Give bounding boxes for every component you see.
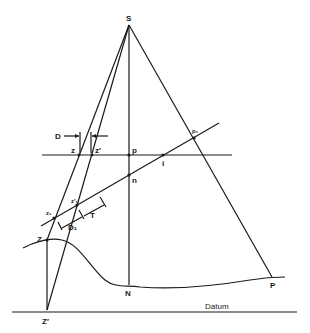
- label-p: p: [132, 146, 137, 155]
- point-z: [78, 154, 81, 157]
- ray-S-Zprime: [47, 25, 129, 310]
- point-n: [127, 173, 130, 176]
- point-p: [127, 153, 130, 156]
- label-z: z: [71, 146, 75, 155]
- label-z1prime: z′₁: [71, 198, 78, 204]
- arrow-head-icon: [75, 134, 79, 138]
- point-p1: [192, 136, 195, 139]
- point-z1: [52, 216, 55, 219]
- point-i: [161, 153, 164, 156]
- label-D1: D₁: [68, 223, 78, 232]
- label-zprime: z′: [95, 146, 101, 155]
- label-z1: z₁: [46, 210, 52, 216]
- label-Zprime: Z′: [42, 317, 49, 326]
- label-S: S: [126, 14, 132, 23]
- label-p1: p₁: [192, 128, 199, 134]
- label-i: i: [162, 159, 164, 168]
- diagram-canvas: S p n i p₁ z z′ D z₁ z′₁ D₁ T Z Z′ N P D…: [0, 0, 310, 333]
- label-n: n: [132, 176, 137, 185]
- label-T: T: [90, 211, 95, 220]
- ray-S-P: [129, 25, 272, 277]
- arrow-head-icon: [92, 134, 96, 138]
- photogrammetry-diagram: S p n i p₁ z z′ D z₁ z′₁ D₁ T Z Z′ N P D…: [0, 0, 310, 333]
- label-D: D: [55, 132, 61, 141]
- label-datum: Datum: [205, 302, 229, 311]
- label-P: P: [270, 281, 276, 290]
- label-Z: Z: [37, 235, 42, 244]
- terrain-profile: [23, 239, 285, 288]
- label-N: N: [125, 289, 131, 298]
- dimension-tick: [58, 222, 62, 230]
- point-Z: [45, 238, 48, 241]
- point-zprime: [91, 154, 94, 157]
